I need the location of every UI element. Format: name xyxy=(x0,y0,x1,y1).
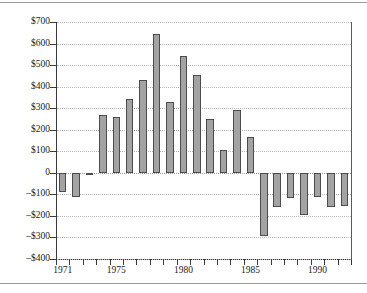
bar-1978 xyxy=(153,34,161,173)
y-axis-label-100: $100 xyxy=(31,147,50,157)
x-axis-label-1990: 1990 xyxy=(308,266,327,276)
gridline--300 xyxy=(57,237,351,238)
plot-area xyxy=(56,22,351,259)
page-bottom-rule xyxy=(0,283,367,284)
x-tick-17 xyxy=(284,259,285,265)
y-axis-label--400: –$400 xyxy=(26,254,50,264)
x-tick-11 xyxy=(204,259,205,265)
y-axis-label-300: $300 xyxy=(31,103,50,113)
y-tick-200 xyxy=(50,130,56,131)
gridline-300 xyxy=(57,108,351,109)
y-axis-label-400: $400 xyxy=(31,82,50,92)
bar-1990 xyxy=(314,173,322,197)
bar-1979 xyxy=(166,102,174,173)
y-tick-400 xyxy=(50,87,56,88)
y-axis-label-200: $200 xyxy=(31,125,50,135)
y-axis-label-500: $500 xyxy=(31,60,50,70)
bar-1987 xyxy=(273,173,281,207)
x-axis-label-1985: 1985 xyxy=(241,266,260,276)
gridline-400 xyxy=(57,87,351,88)
y-axis-label--100: –$100 xyxy=(26,190,50,200)
x-tick-21 xyxy=(338,259,339,265)
bar-1974 xyxy=(99,115,107,173)
gridline-700 xyxy=(57,22,351,23)
bar-1992 xyxy=(341,173,349,206)
bar-1988 xyxy=(287,173,295,198)
bar-1973 xyxy=(86,173,94,175)
y-axis-label--200: –$200 xyxy=(26,211,50,221)
y-axis-label-700: $700 xyxy=(31,17,50,27)
gridline--200 xyxy=(57,216,351,217)
y-tick--200 xyxy=(50,216,56,217)
y-tick-300 xyxy=(50,108,56,109)
y-tick-600 xyxy=(50,44,56,45)
plot-right-edge xyxy=(351,22,352,259)
chart-page: $700$600$500$400$300$200$1000–$100–$200–… xyxy=(0,0,367,293)
x-tick-12 xyxy=(217,259,218,265)
y-tick-100 xyxy=(50,151,56,152)
y-axis-label--300: –$300 xyxy=(26,233,50,243)
bar-1977 xyxy=(139,80,147,173)
gridline-600 xyxy=(57,44,351,45)
x-axis-label-1980: 1980 xyxy=(174,266,193,276)
bar-1980 xyxy=(180,56,188,173)
x-tick-7 xyxy=(150,259,151,265)
x-tick-2 xyxy=(83,259,84,265)
x-axis-label-1971: 1971 xyxy=(53,266,72,276)
x-axis-tick-labels: 19711975198019851990 xyxy=(56,266,356,282)
gridline-500 xyxy=(57,65,351,66)
x-tick-6 xyxy=(136,259,137,265)
bar-1985 xyxy=(247,137,255,173)
x-tick-3 xyxy=(96,259,97,265)
y-axis-label-600: $600 xyxy=(31,39,50,49)
x-tick-18 xyxy=(297,259,298,265)
x-tick-16 xyxy=(271,259,272,265)
bar-1984 xyxy=(233,110,241,172)
bar-1972 xyxy=(72,173,80,197)
bar-1971 xyxy=(59,173,67,192)
y-tick--300 xyxy=(50,237,56,238)
bar-1991 xyxy=(327,173,335,207)
x-tick-22 xyxy=(351,259,352,265)
bar-1983 xyxy=(220,150,228,173)
bar-1982 xyxy=(206,119,214,173)
y-tick-0 xyxy=(50,173,56,174)
bar-1976 xyxy=(126,99,134,173)
x-axis-label-1975: 1975 xyxy=(107,266,126,276)
bar-1975 xyxy=(113,117,121,173)
y-tick-500 xyxy=(50,65,56,66)
y-axis-line xyxy=(56,22,57,259)
y-axis-tick-labels: $700$600$500$400$300$200$1000–$100–$200–… xyxy=(0,22,50,259)
page-top-rule xyxy=(0,2,367,3)
x-tick-8 xyxy=(163,259,164,265)
x-tick-13 xyxy=(230,259,231,265)
bar-1981 xyxy=(193,75,201,173)
y-tick--100 xyxy=(50,194,56,195)
bar-1986 xyxy=(260,173,268,237)
bar-1989 xyxy=(300,173,308,215)
y-tick-700 xyxy=(50,22,56,23)
